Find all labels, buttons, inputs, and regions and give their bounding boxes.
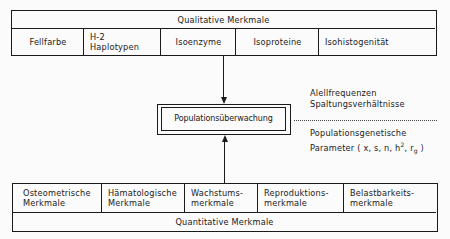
note-population-genetic-parameters: Populationsgenetische Parameter ( x, s, … — [310, 128, 424, 156]
trait-reproduction: Reproduktions- merkmale — [258, 184, 344, 212]
trait-growth: Wachstums- merkmale — [185, 184, 258, 212]
quantitative-traits-box: Osteometrische Merkmale Hämatologische M… — [12, 183, 438, 232]
quantitative-traits-footer-label: Quantitative Merkmale — [175, 217, 273, 227]
population-monitoring-box-outer: Populationsüberwachung — [157, 104, 291, 135]
qualitative-traits-header-label: Qualitative Merkmale — [178, 15, 270, 25]
trait-isoenzyme: Isoenzyme — [161, 29, 236, 54]
trait-h2-haplotypen: H-2 Haplotypen — [84, 29, 160, 54]
trait-resilience: Belastbarkeits- merkmale — [344, 184, 436, 212]
trait-isoproteine: Isoproteine — [236, 29, 319, 54]
trait-osteometric: Osteometrische Merkmale — [13, 184, 102, 212]
qualitative-traits-box: Qualitative Merkmale Fellfarbe H-2 Haplo… — [11, 10, 437, 56]
quantitative-traits-footer: Quantitative Merkmale — [13, 213, 436, 230]
population-monitoring-box-inner: Populationsüberwachung — [161, 107, 286, 131]
trait-fellfarbe: Fellfarbe — [12, 29, 84, 54]
note-allele-frequencies: Alellfrequenzen Spaltungsverhältnisse — [310, 88, 405, 110]
arrow-up-shaft — [224, 141, 225, 184]
arrow-down-shaft — [223, 55, 224, 99]
parameter-formula: Parameter ( x, s, n, h2, rg ) — [310, 139, 424, 156]
trait-isohistogenitaet: Isohistogenität — [319, 29, 435, 54]
dotted-connector-line — [294, 120, 437, 121]
trait-hematologic: Hämatologische Merkmale — [102, 184, 185, 212]
arrow-down-icon — [221, 97, 227, 104]
qualitative-traits-header: Qualitative Merkmale — [12, 11, 435, 28]
population-monitoring-label: Populationsüberwachung — [174, 114, 273, 124]
